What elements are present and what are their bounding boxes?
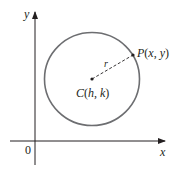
point-label-close: )	[165, 46, 169, 60]
radius-label: r	[104, 58, 108, 69]
center-label: C(h, k)	[76, 86, 109, 100]
origin-label: 0	[25, 143, 31, 157]
point-label: P(x, y)	[136, 46, 169, 60]
diagram-svg: y x 0 r C(h, k) P(x, y)	[0, 0, 178, 171]
radius-line	[92, 55, 133, 79]
circle-diagram: y x 0 r C(h, k) P(x, y)	[0, 0, 178, 171]
center-point	[90, 77, 93, 80]
x-axis-label: x	[159, 145, 166, 159]
center-label-close: )	[105, 86, 109, 100]
y-axis-label: y	[23, 7, 30, 21]
point-p	[131, 53, 134, 56]
